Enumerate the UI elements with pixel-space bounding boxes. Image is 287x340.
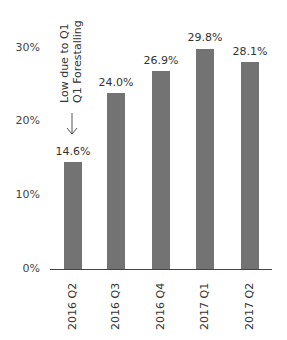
annotation-line-2: Q1 Forestalling bbox=[71, 20, 84, 103]
x-label: 2016 Q2 bbox=[66, 283, 79, 330]
bar-2016-q2 bbox=[64, 162, 82, 269]
annotation-line-1: Low due to Q1 bbox=[58, 20, 71, 103]
y-tick-0: 0% bbox=[0, 262, 40, 275]
value-label: 24.0% bbox=[91, 76, 141, 89]
value-label: 28.1% bbox=[225, 45, 275, 58]
value-label: 26.9% bbox=[136, 54, 186, 67]
value-label: 14.6% bbox=[48, 145, 98, 158]
x-label: 2016 Q3 bbox=[109, 283, 122, 330]
y-tick-20: 20% bbox=[0, 114, 40, 127]
bar-2017-q1 bbox=[196, 49, 214, 269]
x-axis-line bbox=[50, 269, 272, 270]
y-tick-30: 30% bbox=[0, 41, 40, 54]
arrow-down-icon bbox=[66, 112, 78, 136]
bar-2017-q2 bbox=[241, 62, 259, 269]
bar-2016-q3 bbox=[107, 93, 125, 269]
annotation-text: Low due to Q1 Q1 Forestalling bbox=[58, 20, 84, 103]
value-label: 29.8% bbox=[180, 31, 230, 44]
y-tick-10: 10% bbox=[0, 188, 40, 201]
x-label: 2017 Q2 bbox=[243, 283, 256, 330]
x-label: 2016 Q4 bbox=[154, 283, 167, 330]
bar-2016-q4 bbox=[152, 71, 170, 269]
x-label: 2017 Q1 bbox=[198, 283, 211, 330]
